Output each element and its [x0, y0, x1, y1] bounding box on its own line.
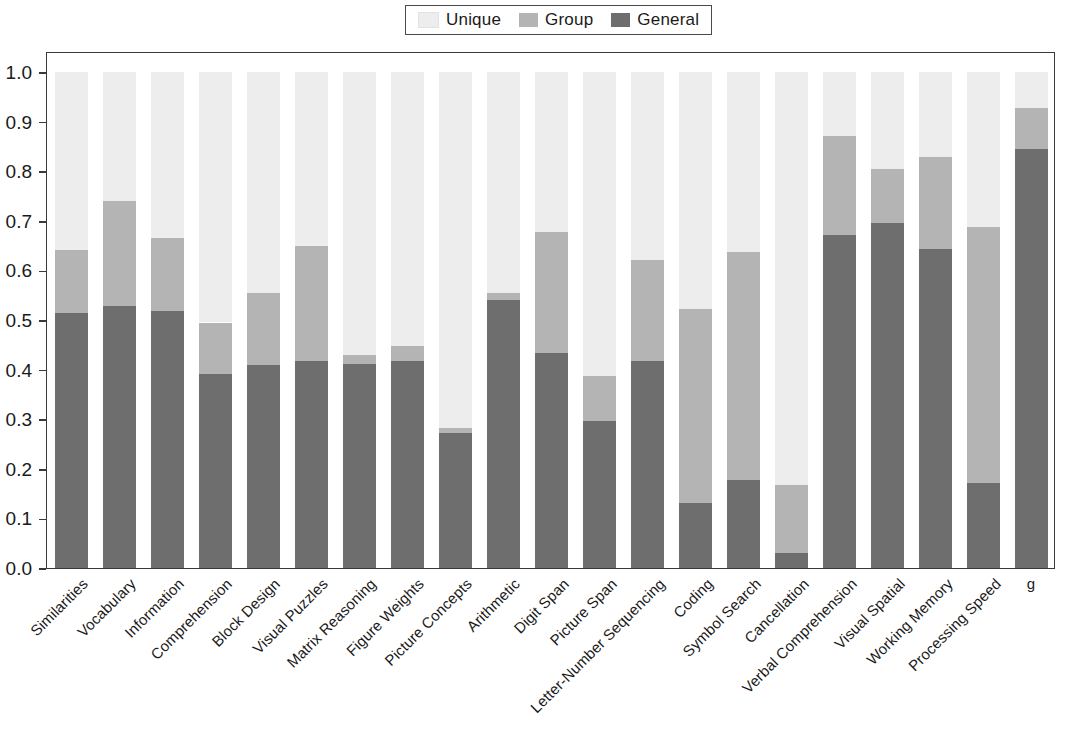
bar-visual-puzzles[interactable] — [295, 72, 328, 568]
bar-segment-group — [199, 323, 232, 375]
legend-entry-group[interactable]: Group — [519, 10, 593, 30]
bar-segment-unique — [871, 72, 904, 169]
y-axis-tick-mark — [39, 370, 46, 372]
bar-segment-group — [295, 246, 328, 362]
bar-segment-general — [775, 553, 808, 568]
bar-segment-unique — [343, 72, 376, 355]
bar-visual-spatial[interactable] — [871, 72, 904, 568]
bar-segment-group — [343, 355, 376, 364]
bar-symbol-search[interactable] — [727, 72, 760, 568]
bar-segment-unique — [919, 72, 952, 157]
bar-comprehension[interactable] — [199, 72, 232, 568]
y-axis-tick-mark — [39, 122, 46, 124]
y-axis-tick-mark — [39, 221, 46, 223]
legend-label: Unique — [446, 10, 501, 30]
legend-swatch-icon — [611, 13, 630, 27]
legend-swatch-icon — [519, 13, 538, 27]
y-axis-tick-mark — [39, 271, 46, 273]
bar-segment-unique — [967, 72, 1000, 227]
y-axis: 0.00.10.20.30.40.50.60.70.80.91.0 — [0, 52, 46, 569]
bar-segment-unique — [439, 72, 472, 428]
bar-segment-unique — [535, 72, 568, 232]
bar-segment-general — [391, 361, 424, 568]
bar-segment-group — [151, 238, 184, 311]
bar-segment-general — [487, 300, 520, 568]
x-axis-labels: SimilaritiesVocabularyInformationCompreh… — [46, 569, 1055, 741]
bar-segment-group — [679, 309, 712, 503]
y-axis-tick-label: 0.7 — [6, 211, 32, 233]
bar-figure-weights[interactable] — [391, 72, 424, 568]
bar-segment-group — [631, 260, 664, 361]
y-axis-tick-label: 0.2 — [6, 459, 32, 481]
bar-segment-group — [1015, 108, 1048, 149]
bar-segment-general — [103, 306, 136, 568]
bar-segment-group — [775, 485, 808, 552]
bar-arithmetic[interactable] — [487, 72, 520, 568]
bar-segment-group — [727, 252, 760, 481]
bar-matrix-reasoning[interactable] — [343, 72, 376, 568]
bar-segment-unique — [103, 72, 136, 201]
y-axis-tick-label: 0.5 — [6, 310, 32, 332]
bar-segment-general — [55, 313, 88, 568]
y-axis-tick-label: 0.6 — [6, 260, 32, 282]
bar-segment-unique — [391, 72, 424, 346]
bar-segment-general — [631, 361, 664, 568]
bar-segment-general — [295, 361, 328, 568]
y-axis-tick-label: 0.3 — [6, 409, 32, 431]
bar-segment-general — [199, 374, 232, 568]
bar-processing-speed[interactable] — [967, 72, 1000, 568]
bar-segment-group — [919, 157, 952, 248]
bar-picture-span[interactable] — [583, 72, 616, 568]
y-axis-tick-mark — [39, 469, 46, 471]
bar-picture-concepts[interactable] — [439, 72, 472, 568]
bar-segment-unique — [1015, 72, 1048, 108]
bar-segment-unique — [55, 72, 88, 250]
bar-segment-general — [247, 365, 280, 568]
bar-segment-general — [1015, 149, 1048, 568]
legend-swatch-icon — [418, 12, 439, 28]
y-axis-tick-mark — [39, 419, 46, 421]
bar-vocabulary[interactable] — [103, 72, 136, 568]
legend-label: Group — [545, 10, 593, 30]
bar-segment-unique — [487, 72, 520, 293]
bar-letter-number-sequencing[interactable] — [631, 72, 664, 568]
legend-label: General — [637, 10, 699, 30]
bar-segment-general — [583, 421, 616, 568]
bar-segment-unique — [199, 72, 232, 322]
bar-segment-unique — [583, 72, 616, 376]
bar-segment-unique — [679, 72, 712, 309]
bar-information[interactable] — [151, 72, 184, 568]
bar-cancellation[interactable] — [775, 72, 808, 568]
bar-g[interactable] — [1015, 72, 1048, 568]
bar-segment-general — [919, 249, 952, 568]
bar-segment-general — [871, 223, 904, 568]
y-axis-tick-mark — [39, 320, 46, 322]
bar-block-design[interactable] — [247, 72, 280, 568]
bar-segment-general — [967, 483, 1000, 568]
y-axis-tick-label: 0.4 — [6, 360, 32, 382]
y-axis-tick-label: 0.0 — [6, 558, 32, 580]
y-axis-tick-mark — [39, 519, 46, 521]
bar-verbal-comprehension[interactable] — [823, 72, 856, 568]
bar-segment-general — [439, 433, 472, 568]
bar-segment-unique — [823, 72, 856, 135]
bar-segment-general — [343, 364, 376, 568]
bar-segment-group — [391, 346, 424, 360]
legend-entry-unique[interactable]: Unique — [418, 10, 501, 30]
y-axis-tick-mark — [39, 72, 46, 74]
bar-working-memory[interactable] — [919, 72, 952, 568]
bar-segment-group — [439, 428, 472, 432]
bar-segment-unique — [151, 72, 184, 238]
bar-segment-group — [583, 376, 616, 421]
bar-digit-span[interactable] — [535, 72, 568, 568]
plot-area — [46, 52, 1055, 569]
legend-entry-general[interactable]: General — [611, 10, 699, 30]
y-axis-tick-label: 0.1 — [6, 508, 32, 530]
bar-similarities[interactable] — [55, 72, 88, 568]
bar-coding[interactable] — [679, 72, 712, 568]
bar-segment-general — [535, 353, 568, 568]
bar-segment-group — [871, 169, 904, 223]
bar-segment-general — [151, 311, 184, 568]
y-axis-tick-label: 0.8 — [6, 161, 32, 183]
y-axis-tick-mark — [39, 568, 46, 570]
